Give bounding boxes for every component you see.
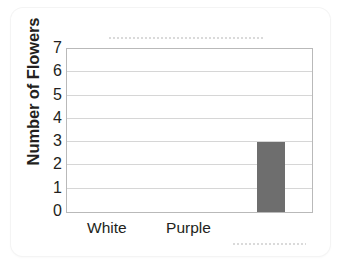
- gridline: [67, 95, 312, 96]
- y-tick-label: 3: [40, 133, 62, 149]
- x-axis-tick-labels: WhitePurple: [0, 219, 343, 241]
- x-tick-label: White: [87, 219, 127, 237]
- bar[interactable]: [257, 142, 285, 212]
- y-tick-label: 4: [40, 110, 62, 126]
- y-tick-label: 6: [40, 63, 62, 79]
- y-tick-label: 0: [40, 203, 62, 219]
- y-tick-label: 5: [40, 87, 62, 103]
- y-tick-label: 7: [40, 40, 62, 56]
- y-tick-label: 2: [40, 156, 62, 172]
- plot-area: [66, 48, 313, 213]
- scan-artifact-dotted-line-bottom: [232, 243, 306, 245]
- scan-artifact-dotted-line-top: [108, 37, 263, 39]
- x-tick-label: Purple: [166, 219, 211, 237]
- y-tick-label: 1: [40, 180, 62, 196]
- gridline: [67, 118, 312, 119]
- y-axis-tick-labels: 76543210: [40, 48, 62, 213]
- bar-chart-figure: Number of Flowers 76543210 WhitePurple: [0, 0, 343, 267]
- gridline: [67, 71, 312, 72]
